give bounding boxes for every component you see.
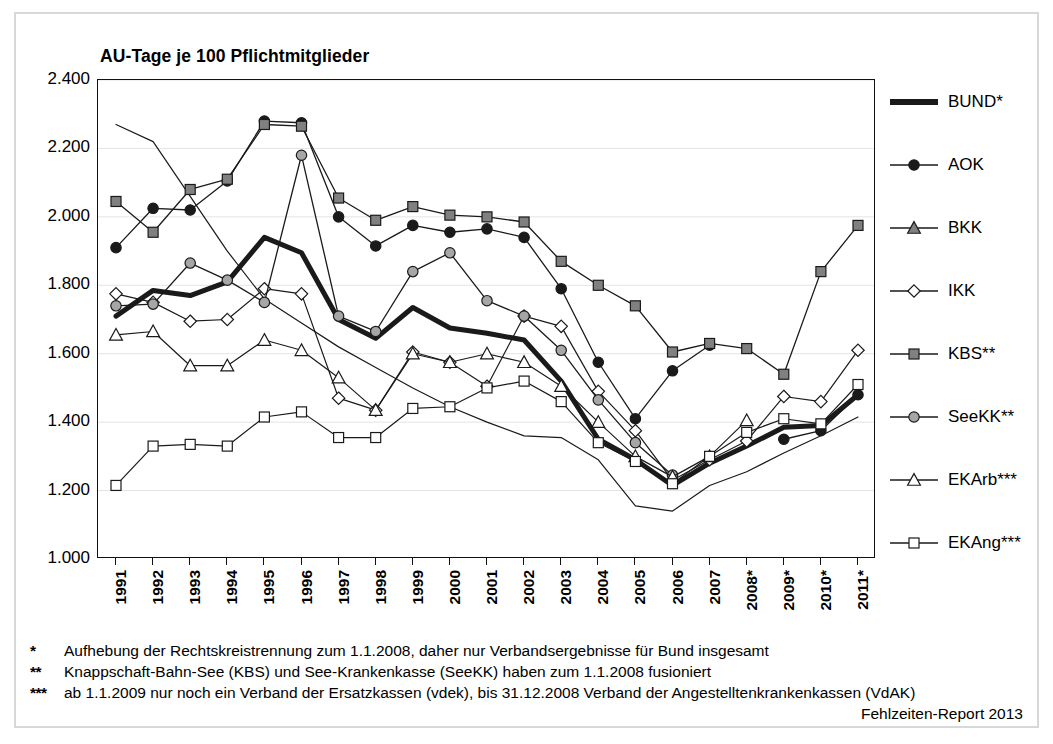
plot-wrapper bbox=[97, 79, 875, 558]
legend-item-label: BUND* bbox=[948, 92, 1003, 112]
x-axis-tick-label: 1993 bbox=[186, 570, 204, 604]
legend-marker-icon bbox=[888, 217, 940, 239]
chart-series-canvas bbox=[98, 80, 875, 558]
x-axis-tick-label: 2011* bbox=[854, 570, 872, 610]
x-axis-tick-label: 1994 bbox=[223, 570, 241, 604]
x-axis-tick-label: 2005 bbox=[631, 570, 649, 604]
data-point-marker bbox=[668, 479, 678, 489]
footnote-row: ***ab 1.1.2009 nur noch ein Verband der … bbox=[30, 682, 1020, 703]
data-point-marker bbox=[334, 193, 344, 203]
data-point-marker bbox=[297, 407, 307, 417]
data-point-marker bbox=[556, 256, 566, 266]
data-point-marker bbox=[779, 369, 789, 379]
legend-item-aok[interactable]: AOK bbox=[888, 154, 984, 176]
legend-marker-icon bbox=[888, 154, 940, 176]
data-point-marker bbox=[408, 220, 418, 230]
data-point-marker bbox=[853, 220, 863, 230]
x-axis-tick-mark bbox=[783, 558, 784, 565]
data-point-marker bbox=[259, 412, 269, 422]
series-markers bbox=[111, 376, 863, 490]
data-point-marker bbox=[147, 325, 160, 337]
data-point-marker bbox=[556, 345, 566, 355]
data-point-marker bbox=[334, 433, 344, 443]
x-axis-tick-label: 1999 bbox=[409, 570, 427, 604]
data-point-marker bbox=[445, 210, 455, 220]
data-point-marker bbox=[779, 434, 789, 444]
data-point-marker bbox=[705, 338, 715, 348]
y-axis-tick-label: 1.000 bbox=[18, 548, 90, 568]
data-point-marker bbox=[222, 275, 232, 285]
data-point-marker bbox=[909, 412, 919, 422]
x-axis-tick-label: 1997 bbox=[335, 570, 353, 604]
y-axis-tick-label: 1.600 bbox=[18, 343, 90, 363]
data-point-marker bbox=[519, 311, 529, 321]
legend-item-kbs[interactable]: KBS** bbox=[888, 343, 995, 365]
data-point-marker bbox=[816, 267, 826, 277]
data-point-marker bbox=[332, 371, 345, 383]
data-point-marker bbox=[295, 288, 307, 300]
data-point-marker bbox=[519, 217, 529, 227]
x-axis-tick-mark bbox=[857, 558, 858, 565]
footnote-text: ab 1.1.2009 nur noch ein Verband der Ers… bbox=[64, 682, 1020, 703]
data-point-marker bbox=[445, 402, 455, 412]
footnote-row: *Aufhebung der Rechtskreistrennung zum 1… bbox=[30, 640, 1020, 661]
x-axis-tick-mark bbox=[672, 558, 673, 565]
data-point-marker bbox=[259, 119, 269, 129]
data-point-marker bbox=[556, 397, 566, 407]
x-axis-tick-label: 2002 bbox=[520, 570, 538, 604]
data-point-marker bbox=[222, 174, 232, 184]
x-axis-tick-label: 1996 bbox=[298, 570, 316, 604]
legend-item-bund[interactable]: BUND* bbox=[888, 91, 1003, 113]
data-point-marker bbox=[258, 334, 271, 346]
data-point-marker bbox=[371, 215, 381, 225]
x-axis-tick-mark bbox=[301, 558, 302, 565]
x-axis-tick-mark bbox=[152, 558, 153, 565]
legend-item-seekk[interactable]: SeeKK** bbox=[888, 406, 1014, 428]
x-axis-tick-label: 2007 bbox=[706, 570, 724, 604]
legend-item-ikk[interactable]: IKK bbox=[888, 280, 975, 302]
data-point-marker bbox=[111, 196, 121, 206]
data-point-marker bbox=[555, 320, 567, 332]
x-axis-tick-mark bbox=[412, 558, 413, 565]
figure-root: AU-Tage je 100 Pflichtmitglieder 1.0001.… bbox=[0, 0, 1053, 744]
data-point-marker bbox=[295, 344, 308, 356]
x-axis-tick-label: 2004 bbox=[594, 570, 612, 604]
data-point-marker bbox=[482, 212, 492, 222]
data-point-marker bbox=[630, 456, 640, 466]
data-point-marker bbox=[148, 227, 158, 237]
x-axis-tick-mark bbox=[375, 558, 376, 565]
legend-item-label: SeeKK** bbox=[948, 407, 1014, 427]
x-axis-tick-mark bbox=[189, 558, 190, 565]
data-point-marker bbox=[740, 414, 753, 426]
data-point-marker bbox=[742, 427, 752, 437]
data-point-marker bbox=[668, 347, 678, 357]
data-point-marker bbox=[593, 438, 603, 448]
x-axis-tick-mark bbox=[449, 558, 450, 565]
footnote-marker: ** bbox=[30, 661, 64, 682]
legend-item-ekang[interactable]: EKAng*** bbox=[888, 532, 1021, 554]
data-point-marker bbox=[481, 347, 494, 359]
x-axis-tick-label: 2000 bbox=[446, 570, 464, 604]
data-point-marker bbox=[852, 344, 864, 356]
chart-legend: BUND*AOKBKKIKKKBS**SeeKK**EKArb***EKAng*… bbox=[888, 80, 1043, 560]
data-point-marker bbox=[630, 301, 640, 311]
x-axis: 1991199219931994199519961997199819992000… bbox=[97, 558, 875, 648]
x-axis-tick-label: 1998 bbox=[372, 570, 390, 604]
legend-item-label: AOK bbox=[948, 155, 984, 175]
data-point-marker bbox=[667, 366, 677, 376]
legend-item-ekarb[interactable]: EKArb*** bbox=[888, 469, 1017, 491]
data-point-marker bbox=[222, 441, 232, 451]
data-point-marker bbox=[148, 299, 158, 309]
data-point-marker bbox=[482, 224, 492, 234]
legend-item-bkk[interactable]: BKK bbox=[888, 217, 982, 239]
data-point-marker bbox=[185, 205, 195, 215]
data-point-marker bbox=[482, 295, 492, 305]
data-point-marker bbox=[909, 538, 919, 548]
y-axis: 1.0001.2001.4001.6001.8002.0002.2002.400 bbox=[18, 79, 90, 558]
x-axis-tick-mark bbox=[338, 558, 339, 565]
data-point-marker bbox=[333, 212, 343, 222]
legend-marker-icon bbox=[888, 532, 940, 554]
legend-item-label: BKK bbox=[948, 218, 982, 238]
data-point-marker bbox=[371, 241, 381, 251]
data-point-marker bbox=[185, 439, 195, 449]
